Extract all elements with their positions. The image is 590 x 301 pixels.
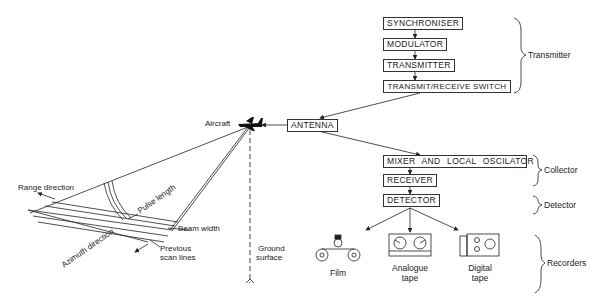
collector-group-label: Collector xyxy=(544,165,578,175)
film-label: Film xyxy=(322,268,354,278)
range-direction-label: Range direction xyxy=(18,183,74,193)
mixer-local-oscillator-box: MIXER AND LOCAL OSCILATOR xyxy=(383,155,527,168)
detector-box: DETECTOR xyxy=(383,194,440,207)
detector-group-label: Detector xyxy=(544,200,576,210)
antenna-box: ANTENNA xyxy=(287,119,338,132)
ground-surface-label-2: surface xyxy=(256,253,282,263)
receiver-box: RECEIVER xyxy=(383,174,437,187)
diagram-lines xyxy=(0,0,590,301)
transmit-receive-switch-box: TRANSMIT/RECEIVE SWITCH xyxy=(383,80,511,93)
analogue-tape-label-1: Analogue xyxy=(385,263,435,273)
digital-tape-label-1: Digital xyxy=(460,263,500,273)
aircraft-label: Aircraft xyxy=(205,119,230,129)
recorders-group-label: Recorders xyxy=(547,258,586,268)
aircraft-icon xyxy=(238,117,263,131)
beam-width-label: Beam width xyxy=(178,224,220,234)
transmitter-group-label: Transmitter xyxy=(528,50,571,60)
analogue-tape-label-2: tape xyxy=(385,273,435,283)
previous-scan-lines-label-2: scan lines xyxy=(160,253,196,263)
transmitter-box: TRANSMITTER xyxy=(383,59,455,72)
modulator-box: MODULATOR xyxy=(383,38,447,51)
digital-tape-label-2: tape xyxy=(460,273,500,283)
synchroniser-box: SYNCHRONISER xyxy=(383,17,463,30)
